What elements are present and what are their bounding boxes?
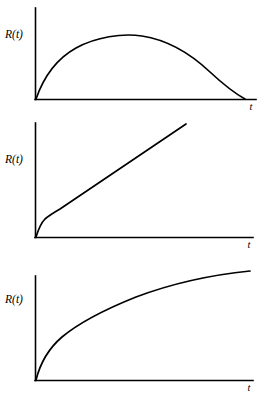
y-axis-label: R(t) <box>4 28 23 41</box>
chart-arch-panel: R(t) t <box>0 0 268 115</box>
chart-arch-svg: R(t) t <box>0 0 268 115</box>
y-axis-label: R(t) <box>4 153 23 166</box>
chart-linear-svg: R(t) t <box>0 115 268 255</box>
curve-arch <box>36 35 245 99</box>
chart-concave-svg: R(t) t <box>0 255 268 398</box>
chart-concave-panel: R(t) t <box>0 255 268 398</box>
figure-page: R(t) t R(t) t R(t) t <box>0 0 268 398</box>
curve-concave <box>36 271 250 380</box>
y-axis-label: R(t) <box>4 293 23 306</box>
x-axis-label: t <box>248 382 252 393</box>
chart-linear-panel: R(t) t <box>0 115 268 255</box>
x-axis-label: t <box>248 239 252 250</box>
x-axis-label: t <box>250 101 254 112</box>
curve-linear <box>36 124 186 237</box>
